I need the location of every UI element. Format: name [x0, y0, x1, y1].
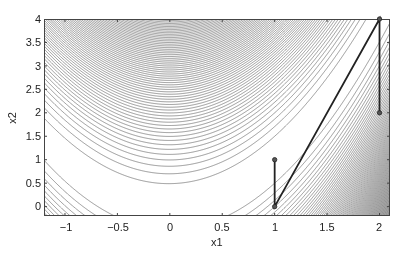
y-tick-label: 1 — [35, 153, 41, 165]
x-tick-label: 1.5 — [319, 221, 334, 233]
contour-figure: −1 −0.5 0 0.5 1 1.5 2 0 0.5 1 1.5 2 2.5 … — [0, 0, 403, 256]
y-tick-label: 4 — [35, 13, 41, 25]
y-tick-label: 3.5 — [26, 36, 41, 48]
x-axis-label: x1 — [211, 236, 223, 248]
y-axis-label: x2 — [6, 112, 18, 124]
y-tick-label: 1.5 — [26, 130, 41, 142]
y-tick-label: 0.5 — [26, 177, 41, 189]
x-tick-label: −0.5 — [107, 221, 129, 233]
x-tick-label: 2 — [376, 221, 382, 233]
x-tick-label: −1 — [60, 221, 73, 233]
y-tick-label: 2 — [35, 106, 41, 118]
y-tick-label: 2.5 — [26, 83, 41, 95]
contour-plot-area — [44, 19, 390, 216]
x-tick-label: 1 — [272, 221, 278, 233]
x-tick-label: 0 — [167, 221, 173, 233]
x-tick-label: 0.5 — [214, 221, 229, 233]
y-tick-label: 3 — [35, 60, 41, 72]
y-tick-label: 0 — [35, 200, 41, 212]
